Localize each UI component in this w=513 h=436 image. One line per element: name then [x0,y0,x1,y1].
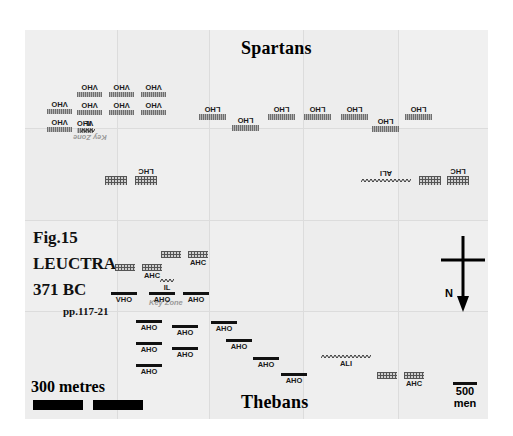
unit-label: VHO [116,296,132,304]
unit-label: VHO [81,102,97,110]
unit-th-aho-h: AHO [211,321,237,336]
compass-north-label: N [445,287,453,299]
key-zone-label-spartan: Key Zone [73,133,107,142]
unit-symbol [404,372,424,379]
unit-symbol [304,114,331,120]
unit-strength-unit: men [443,398,487,410]
unit-strength-count: 500 [443,386,487,398]
unit-label: AHC [406,380,422,388]
compass-rose: N [433,234,488,314]
unit-symbol [268,114,295,120]
figure-caption-date: 371 BC [33,280,86,300]
unit-symbol [47,109,72,114]
unit-label: LHO [310,106,326,114]
figure-caption-pages: pp.117-21 [63,305,109,317]
unit-sp-lhc-right-b: LHC [447,164,469,185]
unit-sp-lho-1: LHO [199,102,226,120]
unit-symbol [141,110,166,115]
unit-symbol [199,114,226,120]
unit-label: LHC [138,168,153,176]
unit-sp-vho-4: VHO [77,98,102,115]
grid-line-vertical [303,30,304,419]
army-label-spartans: Spartans [241,38,312,59]
battle-map: Spartans Thebans Key Zone Key Zone Fig.1… [25,30,488,419]
unit-label: AHO [141,346,158,354]
unit-label: VHO [145,102,161,110]
unit-label: AHO [141,368,158,376]
unit-th-ahc-3a [377,372,397,391]
unit-sp-lho-5: LHO [341,102,368,120]
unit-label: AHO [141,324,158,332]
unit-sp-vho-7: VHO [109,98,134,115]
unit-symbol [142,264,162,271]
unit-th-aho-k: AHO [281,373,307,388]
map-tile [399,129,488,220]
unit-symbol [81,128,95,132]
unit-label: ALI [340,360,352,368]
unit-label: LHO [411,106,427,114]
unit-th-aho-b: AHO [183,292,209,307]
map-tile [304,221,398,311]
unit-sp-vho-1: VHO [47,97,72,114]
unit-th-ali: ALI [321,355,371,371]
figure-caption-title: LEUCTRA [33,254,116,274]
unit-label: LHO [205,106,221,114]
unit-label: VHO [51,119,67,127]
unit-label: AHC [190,259,206,267]
unit-label: VHO [113,102,129,110]
unit-label: LHO [347,106,363,114]
unit-sp-ali: ALI [361,166,411,182]
unit-th-aho-i: AHO [226,339,252,354]
unit-symbol [115,264,135,271]
scale-bar-label: 300 metres [31,378,105,396]
unit-sp-vho-2: VHO [47,115,72,132]
unit-sp-lho-7: LHO [405,102,432,120]
unit-sp-vho-8: VHO [141,80,166,97]
unit-label: VHO [81,84,97,92]
unit-strength-key: 500 men [443,382,487,409]
unit-th-aho-f: AHO [172,347,198,362]
unit-label: LHO [238,117,254,125]
unit-sp-vho-6: VHO [109,80,134,97]
unit-sp-vho-9: VHO [141,98,166,115]
unit-sp-lho-4: LHO [304,102,331,120]
unit-label: AHC [144,272,160,280]
army-label-thebans: Thebans [241,392,308,413]
unit-symbol [109,110,134,115]
grid-line-vertical [398,30,399,419]
unit-symbol [141,92,166,97]
grid-line-vertical [209,30,210,419]
unit-label: IL [85,120,92,128]
map-tile [210,221,303,311]
unit-symbol [47,127,72,132]
scale-bar-segment [93,400,143,410]
unit-sp-lho-2: LHO [232,113,259,131]
unit-label: AHO [258,361,275,369]
unit-th-ahc-1b: AHC [142,264,162,283]
unit-symbol [161,251,181,258]
unit-th-ahc-2b: AHC [188,251,208,270]
unit-sp-lhc-left-a [105,164,127,185]
unit-label: LHO [378,118,394,126]
unit-th-vho: VHO [111,292,137,307]
figure-caption-number: Fig.15 [33,228,78,248]
grid-line-horizontal [25,220,488,221]
unit-symbol [419,176,441,185]
unit-th-aho-a: AHO [149,292,175,307]
unit-sp-vho-3: VHO [77,80,102,97]
unit-label: VHO [51,101,67,109]
unit-symbol [77,92,102,97]
unit-label: AHO [231,343,248,351]
unit-sp-lhc-left-b: LHC [135,164,157,185]
unit-th-ahc-1a [115,264,135,283]
unit-th-aho-g: AHO [136,364,162,379]
map-tile [210,129,303,220]
unit-th-aho-e: AHO [136,342,162,357]
unit-sp-lhc-right-a [419,164,441,185]
unit-symbol [135,176,157,185]
unit-sp-il: IL [81,116,95,132]
unit-symbol [361,178,411,182]
unit-th-ahc-3b: AHC [404,372,424,391]
unit-label: VHO [113,84,129,92]
unit-label: AHO [177,329,194,337]
